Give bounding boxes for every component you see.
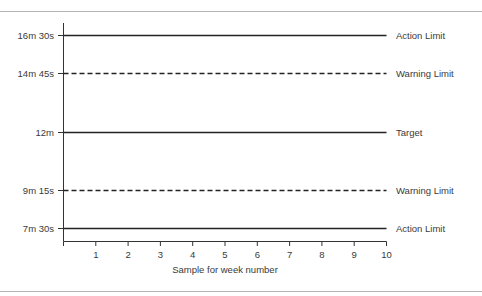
x-tick-label: 10 — [381, 249, 392, 260]
y-tick-label: 7m 30s — [23, 223, 54, 234]
x-tick-label: 4 — [190, 249, 195, 260]
limit-lines: 16m 30sAction Limit14m 45sWarning Limit1… — [18, 30, 455, 234]
y-tick-label: 14m 45s — [18, 68, 55, 79]
limit-label: Action Limit — [396, 223, 445, 234]
limit-label: Target — [396, 127, 423, 138]
x-tick-label: 3 — [158, 249, 163, 260]
x-tick-label: 9 — [352, 249, 357, 260]
y-tick-label: 16m 30s — [18, 30, 55, 41]
limit-label: Warning Limit — [396, 68, 454, 79]
limit-label: Warning Limit — [396, 185, 454, 196]
x-tick-label: 5 — [222, 249, 227, 260]
x-tick-label: 1 — [93, 249, 98, 260]
x-tick-label: 6 — [255, 249, 260, 260]
y-tick-label: 9m 15s — [23, 185, 54, 196]
limit-label: Action Limit — [396, 30, 445, 41]
x-tick-label: 7 — [287, 249, 292, 260]
x-axis-label: Sample for week number — [172, 264, 278, 275]
control-chart: 12345678910 16m 30sAction Limit14m 45sWa… — [0, 0, 482, 296]
y-tick-label: 12m — [36, 127, 55, 138]
x-tick-label: 8 — [319, 249, 324, 260]
x-ticks: 12345678910 — [93, 242, 392, 261]
x-tick-label: 2 — [125, 249, 130, 260]
